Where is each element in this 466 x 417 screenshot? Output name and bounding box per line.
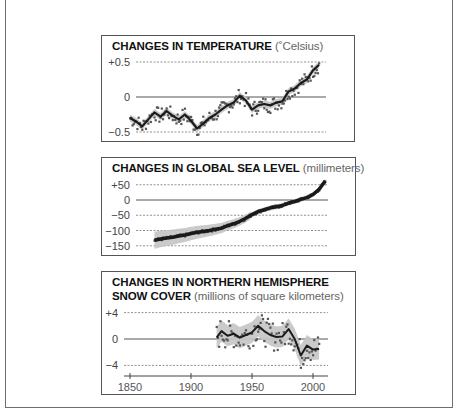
y-tick-label: −0.5 — [108, 126, 130, 138]
data-point — [280, 341, 282, 343]
data-point — [190, 116, 192, 118]
data-point — [181, 109, 183, 111]
data-point — [278, 104, 280, 106]
data-point — [153, 116, 155, 118]
data-point — [244, 105, 246, 107]
data-point — [272, 323, 274, 325]
sea-level-plot: +500−50−100−150 — [102, 158, 357, 257]
data-point — [313, 339, 315, 341]
data-point — [219, 320, 221, 322]
data-point — [239, 102, 241, 104]
data-point — [202, 116, 204, 118]
data-point — [308, 351, 310, 353]
data-point — [256, 113, 258, 115]
data-point — [172, 119, 174, 121]
data-point — [285, 90, 287, 92]
data-point — [316, 69, 318, 71]
data-point — [218, 106, 220, 108]
data-point — [238, 342, 240, 344]
x-tick-label: 1900 — [179, 381, 203, 393]
data-point — [274, 341, 276, 343]
data-point — [261, 101, 263, 103]
y-tick-label: 0 — [112, 333, 118, 345]
data-point — [158, 121, 160, 123]
data-point — [275, 333, 277, 335]
data-point — [257, 331, 259, 333]
y-tick-label: −50 — [111, 209, 130, 221]
data-point — [317, 72, 319, 74]
data-point — [262, 98, 264, 100]
data-point — [268, 323, 270, 325]
data-point — [267, 318, 269, 320]
data-point — [266, 322, 268, 324]
data-point — [253, 325, 255, 327]
data-point — [260, 322, 262, 324]
data-point — [228, 111, 230, 113]
data-point — [147, 122, 149, 124]
data-point — [301, 78, 303, 80]
data-point — [299, 79, 301, 81]
data-point — [257, 110, 259, 112]
data-point — [235, 95, 237, 97]
data-point — [282, 322, 284, 324]
data-point — [301, 357, 303, 359]
data-point — [169, 105, 171, 107]
data-point — [133, 123, 135, 125]
data-point — [290, 343, 292, 345]
data-point — [217, 115, 219, 117]
data-point — [216, 326, 218, 328]
data-point — [168, 117, 170, 119]
data-point — [231, 107, 233, 109]
data-point — [294, 345, 296, 347]
data-point — [167, 114, 169, 116]
data-point — [138, 117, 140, 119]
data-point — [218, 346, 220, 348]
data-point — [310, 80, 312, 82]
data-point — [311, 350, 313, 352]
data-point — [247, 345, 249, 347]
data-point — [288, 96, 290, 98]
data-point — [174, 119, 176, 121]
data-point — [300, 367, 302, 369]
data-point — [264, 98, 266, 100]
data-point — [177, 113, 179, 115]
y-tick-label: −4 — [105, 359, 118, 371]
y-tick-label: −100 — [105, 225, 130, 237]
data-point — [292, 349, 294, 351]
data-point — [252, 103, 254, 105]
data-point — [261, 314, 263, 316]
data-point — [216, 118, 218, 120]
y-tick-label: +4 — [105, 307, 118, 319]
data-point — [150, 121, 152, 123]
data-point — [145, 128, 147, 130]
data-point — [238, 89, 240, 91]
data-point — [253, 101, 255, 103]
data-point — [235, 345, 237, 347]
data-point — [214, 110, 216, 112]
data-point — [262, 318, 264, 320]
y-tick-label: 0 — [124, 91, 130, 103]
data-point — [242, 344, 244, 346]
data-point — [279, 339, 281, 341]
data-point — [317, 336, 319, 338]
data-point — [161, 107, 163, 109]
data-point — [285, 326, 287, 328]
data-point — [302, 83, 304, 85]
data-point — [291, 95, 293, 97]
data-point — [175, 122, 177, 124]
data-point — [303, 359, 305, 361]
y-tick-label: 0 — [124, 194, 130, 206]
x-tick-label: 1850 — [118, 381, 142, 393]
data-point — [228, 320, 230, 322]
data-point — [183, 119, 185, 121]
data-point — [305, 357, 307, 359]
data-point — [286, 323, 288, 325]
temperature-plot: +0.50−0.5 — [102, 36, 356, 143]
data-point — [288, 343, 290, 345]
data-point — [197, 133, 199, 135]
data-point — [291, 339, 293, 341]
y-tick-label: −150 — [105, 240, 130, 252]
data-point — [307, 357, 309, 359]
data-point — [263, 340, 265, 342]
data-point — [273, 350, 275, 352]
